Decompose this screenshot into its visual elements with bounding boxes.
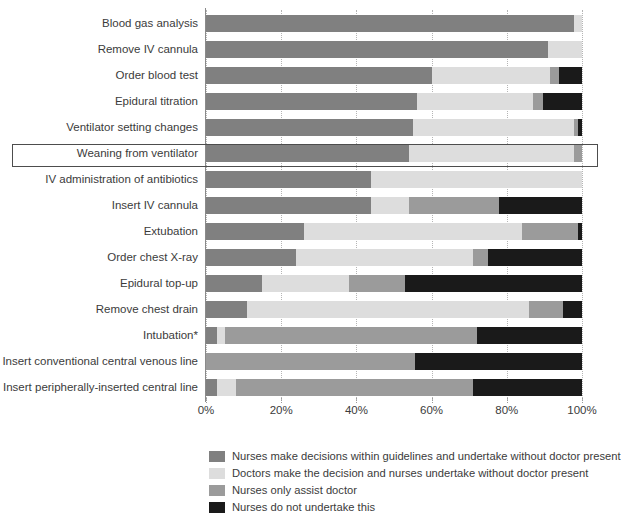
bar-segment-series-3 xyxy=(206,353,415,370)
y-axis-label: Ventilator setting changes xyxy=(0,119,198,136)
legend-item[interactable]: Doctors make the decision and nurses und… xyxy=(209,465,604,482)
x-axis-tick-label: 80% xyxy=(495,404,518,416)
y-axis-label: Epidural top-up xyxy=(0,275,198,292)
plot-area xyxy=(206,10,582,400)
y-axis-label: Remove chest drain xyxy=(0,301,198,318)
legend-swatch-icon xyxy=(209,468,225,479)
bar-segment-series-3 xyxy=(533,93,542,110)
bar-segment-series-2 xyxy=(413,119,575,136)
bar-segment-series-1 xyxy=(206,223,304,240)
x-axis-tickmark xyxy=(432,398,433,403)
bar-segment-series-4 xyxy=(405,275,582,292)
bar-segment-series-4 xyxy=(415,353,582,370)
bar-segment-series-1 xyxy=(206,67,432,84)
bar-segment-series-1 xyxy=(206,301,247,318)
x-axis-tick-label: 0% xyxy=(198,404,215,416)
bar-segment-series-4 xyxy=(499,197,582,214)
legend-item[interactable]: Nurses do not undertake this xyxy=(209,499,604,516)
bar-row xyxy=(206,301,582,318)
bar-segment-series-3 xyxy=(349,275,405,292)
bar-segment-series-1 xyxy=(206,275,262,292)
chart-legend: Nurses make decisions within guidelines … xyxy=(209,448,604,516)
bar-segment-series-2 xyxy=(409,145,574,162)
bar-segment-series-1 xyxy=(206,327,217,344)
bar-segment-series-3 xyxy=(236,379,473,396)
bar-segment-series-2 xyxy=(296,249,473,266)
x-axis-tick-label: 40% xyxy=(345,404,368,416)
y-axis-label: Insert IV cannula xyxy=(0,197,198,214)
y-axis-label: Insert conventional central venous line xyxy=(0,353,198,370)
x-axis-tick-label: 20% xyxy=(270,404,293,416)
bar-segment-series-2 xyxy=(262,275,348,292)
bar-segment-series-4 xyxy=(473,379,582,396)
bar-segment-series-4 xyxy=(488,249,582,266)
bar-row xyxy=(206,119,582,136)
y-axis-label: Epidural titration xyxy=(0,93,198,110)
x-axis-tickmark xyxy=(281,398,282,403)
bar-segment-series-2 xyxy=(304,223,522,240)
y-axis-label: Extubation xyxy=(0,223,198,240)
legend-label: Nurses only assist doctor xyxy=(232,484,357,497)
y-axis-label: Order chest X-ray xyxy=(0,249,198,266)
y-axis-label: Insert peripherally-inserted central lin… xyxy=(0,379,198,396)
y-axis-label: Order blood test xyxy=(0,67,198,84)
legend-label: Nurses make decisions within guidelines … xyxy=(232,450,621,463)
bar-segment-series-4 xyxy=(578,119,582,136)
bar-segment-series-3 xyxy=(574,145,582,162)
bar-segment-series-4 xyxy=(559,67,582,84)
bar-row xyxy=(206,275,582,292)
y-axis-label: Intubation* xyxy=(0,327,198,344)
gridline-100pct xyxy=(582,10,583,400)
bar-segment-series-3 xyxy=(529,301,563,318)
bar-segment-series-3 xyxy=(550,67,559,84)
bar-segment-series-2 xyxy=(574,15,582,32)
bar-row xyxy=(206,327,582,344)
x-axis-tick-label: 100% xyxy=(567,404,596,416)
x-axis-tickmark xyxy=(507,398,508,403)
bar-segment-series-2 xyxy=(247,301,529,318)
legend-item[interactable]: Nurses make decisions within guidelines … xyxy=(209,448,604,465)
bar-segment-series-1 xyxy=(206,249,296,266)
bar-row xyxy=(206,67,582,84)
x-axis-tickmark xyxy=(582,398,583,403)
bar-row xyxy=(206,41,582,58)
x-axis-tickmark xyxy=(356,398,357,403)
legend-swatch-icon xyxy=(209,502,225,513)
legend-label: Doctors make the decision and nurses und… xyxy=(232,467,588,480)
bar-segment-series-2 xyxy=(217,379,236,396)
y-axis-label: IV administration of antibiotics xyxy=(0,171,198,188)
bar-row xyxy=(206,353,582,370)
bar-segment-series-1 xyxy=(206,41,548,58)
bar-segment-series-1 xyxy=(206,197,371,214)
bar-segment-series-4 xyxy=(578,223,582,240)
bar-row xyxy=(206,93,582,110)
y-axis-label: Weaning from ventilator xyxy=(0,145,198,162)
bar-segment-series-1 xyxy=(206,171,371,188)
y-axis-label: Remove IV cannula xyxy=(0,41,198,58)
y-axis-label: Blood gas analysis xyxy=(0,15,198,32)
bar-segment-series-2 xyxy=(548,41,582,58)
bar-segment-series-2 xyxy=(371,171,582,188)
bar-segment-series-1 xyxy=(206,93,417,110)
bar-segment-series-3 xyxy=(225,327,477,344)
legend-swatch-icon xyxy=(209,485,225,496)
bar-segment-series-4 xyxy=(563,301,582,318)
legend-label: Nurses do not undertake this xyxy=(232,501,375,514)
y-axis-category-labels: Blood gas analysisRemove IV cannulaOrder… xyxy=(0,10,198,400)
bar-segment-series-1 xyxy=(206,379,217,396)
bar-segment-series-1 xyxy=(206,15,574,32)
x-axis-tickmark xyxy=(206,398,207,403)
legend-item[interactable]: Nurses only assist doctor xyxy=(209,482,604,499)
bar-segment-series-3 xyxy=(473,249,488,266)
bar-segment-series-1 xyxy=(206,145,409,162)
bar-row xyxy=(206,379,582,396)
bar-row xyxy=(206,249,582,266)
bar-segment-series-3 xyxy=(522,223,578,240)
bar-row xyxy=(206,15,582,32)
bar-segment-series-2 xyxy=(417,93,534,110)
legend-swatch-icon xyxy=(209,451,225,462)
bar-row xyxy=(206,171,582,188)
bar-segment-series-2 xyxy=(217,327,225,344)
bar-segment-series-2 xyxy=(432,67,550,84)
